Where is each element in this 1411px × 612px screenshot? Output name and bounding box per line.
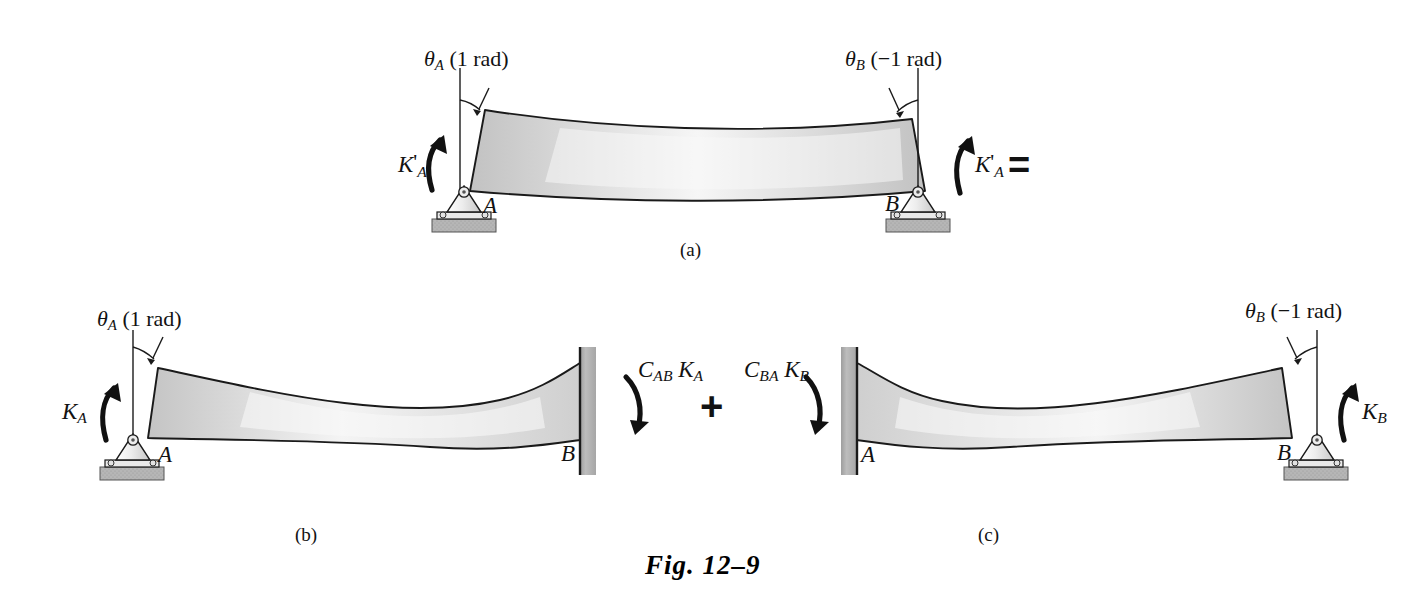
panel-a-left-angle-label: θA (1 rad) [424, 48, 509, 73]
theta-subscript-a-right: B [856, 57, 865, 73]
panel-c-left-moment-label: CBA KB [744, 358, 809, 384]
panel-b-pin-support-left [100, 434, 164, 480]
theta-value-a-left: (1 rad) [449, 46, 508, 71]
panel-b-fixed-wall-support [580, 347, 596, 475]
panel-a-node-label-a: A [483, 194, 497, 217]
theta-subscript-b-left: A [108, 317, 117, 333]
carryover-symbol-b: C [638, 357, 653, 382]
moment-symbol-a-left: K [398, 152, 413, 177]
panel-b-node-label-b: B [561, 442, 575, 465]
panel-c-fixed-wall-support [841, 347, 857, 475]
theta-symbol-a-right: θ [845, 46, 856, 71]
figure-drawing-canvas [0, 0, 1411, 612]
theta-symbol-a-left: θ [424, 46, 435, 71]
carryover-symbol2-b: K [678, 357, 693, 382]
subfigure-label-a: (a) [680, 240, 701, 259]
panel-a-left-moment-label: K'A [398, 152, 427, 179]
panel-c-right-moment-label: KB [1362, 400, 1387, 426]
panel-c-pin-support-right [1284, 434, 1348, 480]
panel-a-left-angle-leader [479, 88, 489, 109]
panel-c-right-angle-label: θB (−1 rad) [1245, 300, 1342, 325]
figure-caption: Fig. 12–9 [645, 550, 761, 581]
moment-symbol-c-right: K [1362, 399, 1377, 424]
figure-container: θA (1 rad) θB (−1 rad) K'A K'A A B = (a)… [0, 0, 1411, 612]
panel-c-right-angle-arc [1295, 347, 1317, 359]
panel-c-left-moment-arrowhead [810, 420, 829, 435]
carryover-subscript2-c: B [800, 367, 810, 384]
moment-subscript-c-right: B [1377, 409, 1387, 426]
theta-value-b-left: (1 rad) [122, 306, 181, 331]
panel-a-right-angle-label: θB (−1 rad) [845, 48, 942, 73]
moment-subscript-a-right: A [994, 163, 1004, 180]
subfigure-label-c: (c) [978, 525, 999, 544]
carryover-subscript-c: BA [759, 367, 778, 384]
theta-subscript-a-left: A [435, 57, 444, 73]
carryover-symbol-c: C [744, 357, 759, 382]
subfigure-label-b: (b) [295, 525, 317, 544]
panel-b-left-moment-label: KA [62, 400, 87, 426]
panel-c-right-angle-leader [1287, 337, 1297, 358]
panel-c-node-label-b: B [1277, 441, 1291, 464]
panel-b-right-moment-arrowhead [630, 420, 649, 435]
panel-b-left-angle-label: θA (1 rad) [97, 308, 182, 333]
moment-symbol-a-right: K [975, 152, 990, 177]
moment-subscript-a-left: A [417, 163, 427, 180]
panel-b-node-label-a: A [158, 443, 172, 466]
panel-a-right-angle-leader [889, 88, 899, 110]
panel-a-left-angle-arc [460, 100, 480, 110]
carryover-subscript2-b: A [694, 367, 704, 384]
panel-b-right-moment-label: CAB KA [638, 358, 703, 384]
theta-subscript-c-right: B [1256, 309, 1265, 325]
panel-b-left-angle-arc [133, 347, 154, 359]
carryover-symbol2-c: K [784, 357, 799, 382]
theta-symbol-b-left: θ [97, 306, 108, 331]
equals-sign: = [1008, 146, 1030, 184]
panel-a-right-moment-label: K'A [975, 152, 1004, 179]
moment-subscript-b-left: A [77, 409, 87, 426]
plus-sign: + [700, 386, 723, 426]
theta-value-c-right: (−1 rad) [1270, 298, 1342, 323]
moment-symbol-b-left: K [62, 399, 77, 424]
panel-b-left-angle-leader [153, 337, 163, 358]
panel-a-node-label-b: B [885, 192, 899, 215]
panel-a-right-angle-arc [897, 100, 918, 112]
panel-c-node-label-a: A [861, 443, 875, 466]
theta-value-a-right: (−1 rad) [870, 46, 942, 71]
theta-symbol-c-right: θ [1245, 298, 1256, 323]
carryover-subscript-b: AB [653, 367, 672, 384]
